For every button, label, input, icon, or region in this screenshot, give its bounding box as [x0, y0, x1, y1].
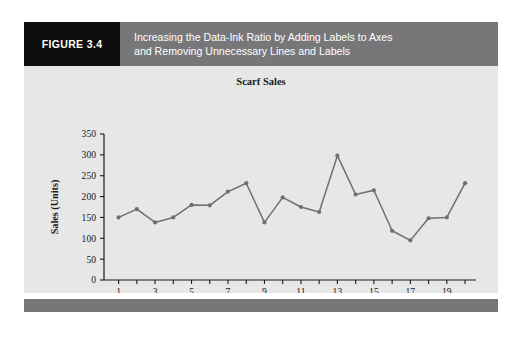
chart-panel: Scarf Sales 050100150200250300350 135791…: [24, 66, 498, 293]
y-axis-tick-label: 250: [82, 170, 97, 181]
y-axis-tick-label: 50: [86, 254, 96, 265]
x-axis-tick-label: 7: [226, 286, 231, 294]
data-point-marker: [317, 210, 321, 214]
data-point-marker: [372, 188, 376, 192]
x-axis-tick-label: 3: [153, 286, 158, 294]
data-point-marker: [153, 220, 157, 224]
data-point-marker: [335, 154, 339, 158]
series-line-scarf-sales: [119, 156, 465, 241]
x-axis-tick-label: 13: [333, 286, 343, 294]
y-axis-tick-label: 350: [82, 128, 97, 139]
line-chart: 050100150200250300350 135791113151719 Sa…: [24, 66, 498, 293]
data-point-marker: [226, 189, 230, 193]
x-axis-tick-label: 15: [369, 286, 379, 294]
x-axis-tick-labels: 135791113151719: [116, 286, 452, 294]
x-axis-tick-label: 9: [262, 286, 267, 294]
figure-block: FIGURE 3.4 Increasing the Data-Ink Ratio…: [24, 22, 498, 312]
data-point-marker: [408, 238, 412, 242]
data-point-marker: [445, 215, 449, 219]
data-point-marker: [281, 195, 285, 199]
y-axis-tick-label: 100: [82, 233, 97, 244]
figure-caption-bar: FIGURE 3.4 Increasing the Data-Ink Ratio…: [24, 22, 498, 66]
figure-number-label: FIGURE 3.4: [42, 38, 103, 50]
data-point-marker: [390, 229, 394, 233]
x-axis-tick-label: 1: [116, 286, 121, 294]
data-point-marker: [171, 215, 175, 219]
x-axis-tick-label: 11: [296, 286, 305, 294]
series-markers: [116, 154, 467, 243]
data-point-marker: [262, 220, 266, 224]
data-point-marker: [299, 205, 303, 209]
x-axis-ticks: [119, 280, 465, 284]
y-axis-tick-label: 200: [82, 191, 97, 202]
y-axis-tick-label: 300: [82, 149, 97, 160]
y-axis-tick-labels: 050100150200250300350: [82, 128, 97, 285]
data-point-marker: [463, 181, 467, 185]
figure-number-block: FIGURE 3.4: [24, 22, 120, 66]
x-axis-tick-label: 19: [442, 286, 452, 294]
y-axis-tick-label: 150: [82, 212, 97, 223]
data-point-marker: [426, 216, 430, 220]
data-point-marker: [208, 203, 212, 207]
data-point-marker: [116, 215, 120, 219]
figure-caption-block: Increasing the Data-Ink Ratio by Adding …: [120, 22, 498, 66]
data-point-marker: [189, 203, 193, 207]
data-point-marker: [244, 181, 248, 185]
data-point-marker: [354, 192, 358, 196]
x-axis-tick-label: 17: [406, 286, 416, 294]
figure-caption-text: Increasing the Data-Ink Ratio by Adding …: [134, 30, 393, 59]
y-axis-label: Sales (Units): [49, 180, 61, 235]
x-axis-tick-label: 5: [189, 286, 194, 294]
y-axis-tick-label: 0: [91, 274, 96, 285]
figure-footer-bar: [24, 299, 498, 312]
data-point-marker: [135, 207, 139, 211]
